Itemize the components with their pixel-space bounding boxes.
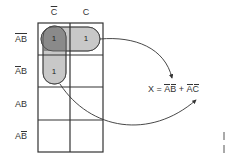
arrow-to-term1 [100,39,172,78]
cell-r1-c0: 1 [48,67,60,76]
equation-lhs: X = [148,84,164,94]
cell-r0-c0: 1 [48,34,60,43]
equation-term2: AC [187,84,200,94]
equation-plus: + [176,84,186,94]
equation-term1-text: AB [164,84,176,94]
boolean-equation: X = AB + AC [148,84,199,94]
equation-term1: AB [164,84,176,94]
equation-term2-text: AC [187,84,200,94]
cell-r0-c1: 1 [80,34,92,43]
kmap-diagram [0,0,226,163]
